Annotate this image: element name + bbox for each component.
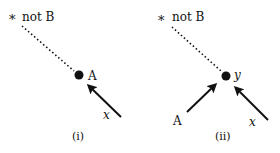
panel-ii: * not B y A x (ii) — [158, 10, 268, 143]
panel-caption: (i) — [72, 130, 84, 143]
arrow-x-label: x — [103, 108, 110, 122]
asterisk-icon: * — [9, 12, 16, 27]
node-dot — [222, 72, 231, 81]
panel-caption: (ii) — [215, 130, 231, 143]
not-b-label: not B — [172, 10, 205, 24]
dotted-line — [172, 27, 221, 71]
node-label: y — [233, 68, 241, 82]
arrow-a — [187, 85, 215, 112]
panel-i: * not B A x (i) — [9, 10, 121, 143]
node-dot — [75, 71, 84, 80]
diagram-canvas: * not B A x (i) * not B y A x (ii) — [0, 0, 280, 153]
dotted-line — [22, 26, 74, 71]
not-b-label: not B — [22, 10, 55, 24]
arrow-x-label: x — [249, 115, 256, 129]
asterisk-icon: * — [158, 13, 165, 28]
arrow-a-label: A — [172, 114, 182, 128]
node-label: A — [87, 69, 97, 83]
